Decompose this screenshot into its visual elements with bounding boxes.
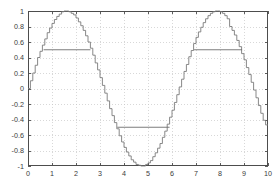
ytick-label: 0.2 xyxy=(14,69,24,78)
xtick-label: 1 xyxy=(50,169,54,178)
ytick-label: -0.6 xyxy=(12,131,24,140)
ytick-label: -0.4 xyxy=(12,115,24,124)
gridlines-group xyxy=(28,11,268,166)
series-quantized-sine xyxy=(28,11,268,166)
xtick-label: 9 xyxy=(242,169,246,178)
xtick-label: 5 xyxy=(146,169,150,178)
xtick-label: 6 xyxy=(170,169,174,178)
axes-frame xyxy=(29,12,268,166)
xtick-label: 3 xyxy=(98,169,102,178)
ytick-label: 0.8 xyxy=(14,22,24,31)
ytick-labels-group: -1-0.8-0.6-0.4-0.200.20.40.60.81 xyxy=(12,7,24,171)
plot-area: -1-0.8-0.6-0.4-0.200.20.40.60.81 0123456… xyxy=(0,0,278,188)
ytick-label: 0.6 xyxy=(14,38,24,47)
xtick-label: 8 xyxy=(218,169,222,178)
xtick-labels-group: 012345678910 xyxy=(26,169,272,178)
ytick-label: -0.8 xyxy=(12,146,24,155)
ytick-label: 0.4 xyxy=(14,53,24,62)
figure-canvas: -1-0.8-0.6-0.4-0.200.20.40.60.81 0123456… xyxy=(0,0,278,188)
ytick-label: 1 xyxy=(20,7,24,16)
xtick-label: 4 xyxy=(122,169,126,178)
ytick-label: -1 xyxy=(18,162,24,171)
ytick-label: -0.2 xyxy=(12,100,24,109)
xtick-label: 10 xyxy=(264,169,272,178)
series-group xyxy=(28,11,268,166)
ytick-label: 0 xyxy=(20,84,24,93)
xtick-label: 7 xyxy=(194,169,198,178)
xtick-label: 2 xyxy=(74,169,78,178)
xtick-label: 0 xyxy=(26,169,30,178)
